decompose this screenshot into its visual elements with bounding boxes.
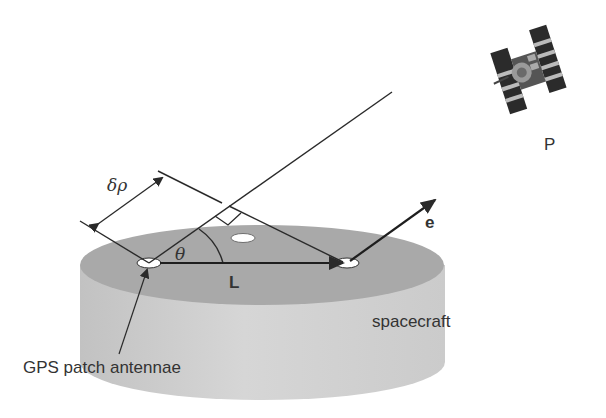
gps-satellite-icon [481,25,569,116]
right-angle-marker [215,213,241,225]
satellite-label: P [544,135,555,155]
theta-label: θ [175,244,185,264]
spacecraft-label: spacecraft [372,312,450,332]
center-port [231,234,255,243]
delta-rho-label: δρ [107,175,127,195]
unit-vector-label: e [425,213,434,233]
antennae-label: GPS patch antennae [23,358,181,378]
wavefront-line-upper [158,171,222,203]
diagram-svg [0,0,606,418]
cylinder-top [80,225,444,305]
baseline-label: L [229,273,239,293]
diagram-canvas: P δρ θ L e spacecraft GPS patch antennae [0,0,606,418]
